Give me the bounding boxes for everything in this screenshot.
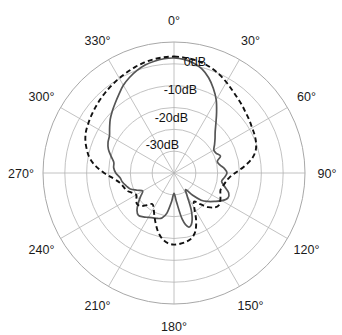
angle-tick-labels: 0°30°60°90°120°150°180°210°240°270°300°3… — [8, 14, 336, 334]
angle-label-120: 120° — [294, 243, 320, 257]
radial-tick-labels: 0dB-10dB-20dB-30dB — [146, 55, 206, 152]
angle-label-60: 60° — [297, 90, 316, 104]
grid-spoke-60 — [174, 108, 287, 174]
angle-label-330: 330° — [85, 34, 111, 48]
radial-label-3: -30dB — [146, 138, 179, 152]
radial-label-0: 0dB — [184, 55, 206, 69]
angle-label-150: 150° — [238, 299, 264, 313]
angle-label-180: 180° — [161, 320, 187, 334]
angle-label-300: 300° — [29, 90, 55, 104]
angle-label-30: 30° — [241, 34, 260, 48]
polar-grid — [43, 42, 305, 304]
angle-label-240: 240° — [29, 243, 55, 257]
polar-chart-canvas: 0°30°60°90°120°150°180°210°240°270°300°3… — [0, 0, 342, 335]
polar-plot-figure: 0°30°60°90°120°150°180°210°240°270°300°3… — [0, 0, 342, 335]
radial-label-2: -20dB — [155, 111, 188, 125]
grid-spoke-150 — [174, 173, 240, 286]
angle-label-210: 210° — [85, 299, 111, 313]
angle-label-270: 270° — [8, 167, 34, 181]
radial-label-1: -10dB — [164, 83, 197, 97]
angle-label-0: 0° — [168, 14, 180, 28]
angle-label-90: 90° — [318, 167, 337, 181]
